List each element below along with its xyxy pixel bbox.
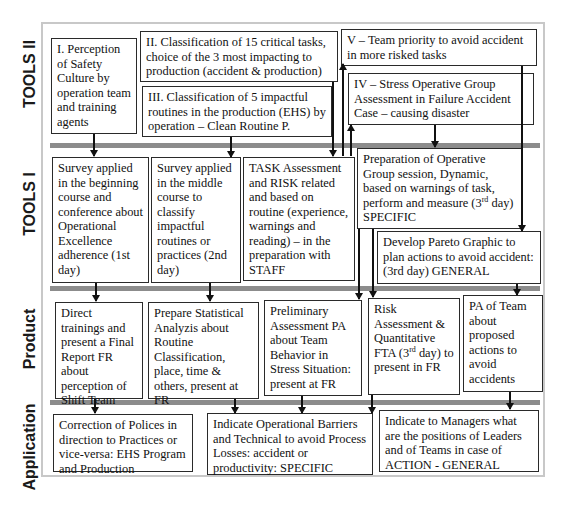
application-box-managers-positions: Indicate to Managers what are the positi… — [379, 410, 539, 472]
separator-bar-2 — [50, 286, 540, 291]
superscript-rd-2: rd — [409, 344, 416, 353]
tools2-box-perception: I. Perception of Safety Culture by opera… — [51, 38, 137, 134]
arrow-pareto-to-pa-team — [516, 284, 518, 295]
lane-label-tools-ii: TOOLS II — [21, 14, 39, 134]
tools2-box-classification-5: III. Classification of 5 impactful routi… — [142, 86, 332, 137]
tools2-box-classification-15: II. Classification of 15 critical tasks,… — [140, 31, 338, 82]
arrow-risk-to-barriers — [371, 395, 373, 413]
arrow-perception-to-survey — [93, 134, 95, 156]
product-box-pa-team: PA of Team about proposed actions to avo… — [463, 295, 543, 392]
arrow-survey-middle-to-statistical — [209, 283, 211, 301]
tools2-box-stress-assessment: IV – Stress Operative Group Assessment i… — [348, 73, 534, 125]
tools2-box-team-priority: V – Team priority to avoid accident in m… — [341, 29, 537, 66]
lane-label-application: Application — [21, 387, 39, 507]
preparation-session-text: Preparation of Operative Group session, … — [363, 152, 495, 210]
product-box-risk-assessment: Risk Assessment & Quantitative FTA (3rd … — [368, 298, 460, 395]
arrow-classification5-to-survey-middle — [230, 137, 232, 157]
arrow-preparation-to-preliminary — [358, 229, 360, 299]
arrow-task-to-team-priority — [342, 64, 344, 156]
separator-bar-3 — [50, 400, 540, 405]
arrow-stress-to-preparation — [434, 125, 436, 147]
tools1-box-pareto: Develop Pareto Graphic to plan actions t… — [377, 231, 541, 284]
arrow-team-priority-to-pareto — [521, 66, 523, 231]
lane-label-tools-i: TOOLS I — [21, 144, 39, 264]
arrow-statistical-to-barriers — [234, 399, 236, 413]
arrow-preliminary-to-barriers — [301, 396, 303, 413]
product-box-statistical-analysis: Prepare Statistical Analyzis about Routi… — [148, 302, 259, 399]
arrow-preparation-to-risk — [372, 229, 374, 297]
tools1-box-task-assessment: TASK Assessment and RISK related and bas… — [243, 157, 355, 281]
arrow-direct-trainings-to-correction — [94, 399, 96, 413]
arrow-classification15-to-task — [332, 82, 334, 156]
tools1-box-survey-middle: Survey applied in the middle course to c… — [151, 157, 241, 283]
arrow-task-to-stress — [350, 125, 352, 156]
product-box-direct-trainings: Direct trainings and present a Final Rep… — [55, 302, 143, 399]
arrow-pa-team-to-managers — [509, 392, 511, 409]
tools1-box-preparation-session: Preparation of Operative Group session, … — [357, 148, 522, 229]
arrow-survey-to-direct-trainings — [95, 283, 97, 301]
product-box-preliminary-assessment: Preliminary Assessment PA about Team Beh… — [264, 300, 362, 396]
tools1-box-survey-beginning: Survey applied in the beginning course a… — [52, 157, 149, 283]
lane-label-product: Product — [21, 279, 39, 399]
application-box-operational-barriers: Indicate Operational Barriers and Techni… — [207, 413, 373, 475]
application-box-correction-polices: Correction of Polices in direction to Pr… — [53, 414, 193, 472]
